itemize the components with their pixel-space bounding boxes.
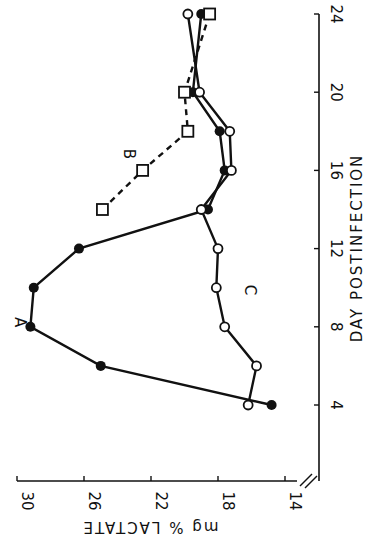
lactate-chart: 14182226304812162024 DAY POSTINFECTIONmg… (0, 0, 384, 541)
x-tick-label: 16 (327, 161, 345, 180)
y-tick-label: 30 (18, 491, 36, 510)
x-tick-label: 12 (327, 239, 345, 258)
labels: DAY POSTINFECTIONmg % LACTATEABC (11, 149, 366, 536)
y-axis-title: mg % LACTATE (82, 518, 219, 536)
data-point-open-square (137, 165, 148, 176)
data-point-open-square (204, 9, 215, 20)
axis-break-mark (300, 474, 312, 486)
data-point-open-circle (195, 88, 204, 97)
y-tick-label: 18 (219, 491, 237, 510)
chart-canvas: 14182226304812162024 DAY POSTINFECTIONmg… (0, 0, 384, 541)
series-C (183, 10, 261, 410)
y-tick-label: 14 (286, 491, 304, 510)
axes: 14182226304812162024 (17, 4, 345, 510)
x-tick-label: 20 (327, 83, 345, 102)
data-point-open-circle (214, 244, 223, 253)
series-A (25, 9, 276, 410)
x-tick-label: 8 (327, 322, 345, 332)
data-point-open-square (182, 126, 193, 137)
data-point-open-circle (225, 127, 234, 136)
data-point-filled-circle (74, 244, 84, 254)
y-tick-label: 26 (85, 491, 103, 510)
series-line (102, 14, 209, 210)
data-point-filled-circle (29, 283, 39, 293)
series-layer (25, 9, 276, 411)
data-point-open-square (179, 87, 190, 98)
data-point-open-circle (252, 361, 261, 370)
data-point-open-circle (183, 10, 192, 19)
series-label-A: A (11, 317, 29, 328)
y-tick-label: 22 (152, 491, 170, 510)
data-point-open-circle (244, 401, 253, 410)
data-point-open-circle (220, 322, 229, 331)
x-axis-title: DAY POSTINFECTION (348, 154, 366, 343)
axis-break-mark (305, 476, 317, 488)
data-point-open-circle (227, 166, 236, 175)
data-point-filled-circle (267, 400, 277, 410)
series-line (30, 14, 271, 405)
data-point-open-circle (197, 205, 206, 214)
series-label-B: B (120, 149, 138, 159)
data-point-filled-circle (215, 126, 225, 136)
data-point-open-square (97, 204, 108, 215)
data-point-filled-circle (96, 361, 106, 371)
x-tick-label: 24 (327, 4, 345, 23)
x-tick-label: 4 (327, 400, 345, 410)
series-label-C: C (241, 285, 259, 295)
data-point-open-circle (212, 283, 221, 292)
